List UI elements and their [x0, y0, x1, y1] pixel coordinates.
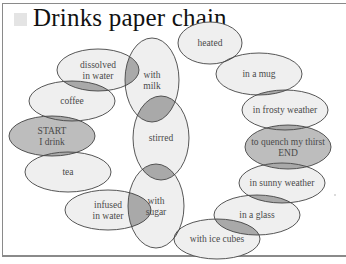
- node-label-with-milk: with: [144, 70, 161, 80]
- node-label-with-ice-cubes: with ice cubes: [190, 234, 245, 244]
- node-label-to-quench-my-thirst-end: to quench my thirst: [251, 137, 325, 147]
- node-label-heated: heated: [198, 38, 223, 48]
- node-label-coffee: coffee: [60, 96, 84, 106]
- node-label-infused-in-water: in water: [93, 211, 125, 221]
- node-label-stirred: stirred: [149, 133, 174, 143]
- node-label-to-quench-my-thirst-end: END: [278, 148, 298, 158]
- stray-dot: [334, 194, 336, 196]
- node-label-with-milk: milk: [143, 81, 161, 91]
- node-label-in-frosty-weather: in frosty weather: [253, 105, 318, 115]
- node-label-dissolved-in-water: in water: [83, 71, 115, 81]
- node-label-start-i-drink: START: [38, 126, 67, 136]
- node-label-dissolved-in-water: dissolved: [80, 60, 116, 70]
- node-label-in-a-mug: in a mug: [242, 69, 275, 79]
- node-label-in-sunny-weather: in sunny weather: [250, 178, 316, 188]
- node-label-in-a-glass: in a glass: [239, 210, 275, 220]
- node-label-with-sugar: with: [148, 196, 165, 206]
- node-label-tea: tea: [62, 167, 74, 177]
- node-label-with-sugar: sugar: [146, 207, 167, 217]
- node-label-infused-in-water: infused: [94, 200, 122, 210]
- node-label-start-i-drink: I drink: [39, 137, 65, 147]
